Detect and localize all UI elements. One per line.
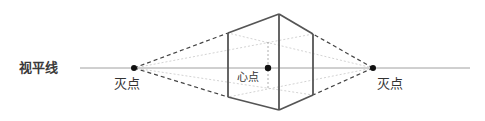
box-edges: [228, 14, 313, 110]
horizon-label: 视平线: [19, 61, 58, 74]
vanishing-point-right: [370, 65, 376, 71]
two-point-perspective-diagram: 视平线 灭点 灭点 心点: [0, 0, 485, 121]
guide-lines: [134, 33, 373, 97]
vanishing-point-left: [131, 65, 137, 71]
center-point-label: 心点: [237, 72, 259, 83]
vanishing-point-left-label: 灭点: [114, 77, 140, 90]
center-point: [265, 65, 271, 71]
diagram-canvas: [0, 0, 485, 121]
projection-lines: [134, 33, 373, 97]
vanishing-point-right-label: 灭点: [377, 77, 403, 90]
